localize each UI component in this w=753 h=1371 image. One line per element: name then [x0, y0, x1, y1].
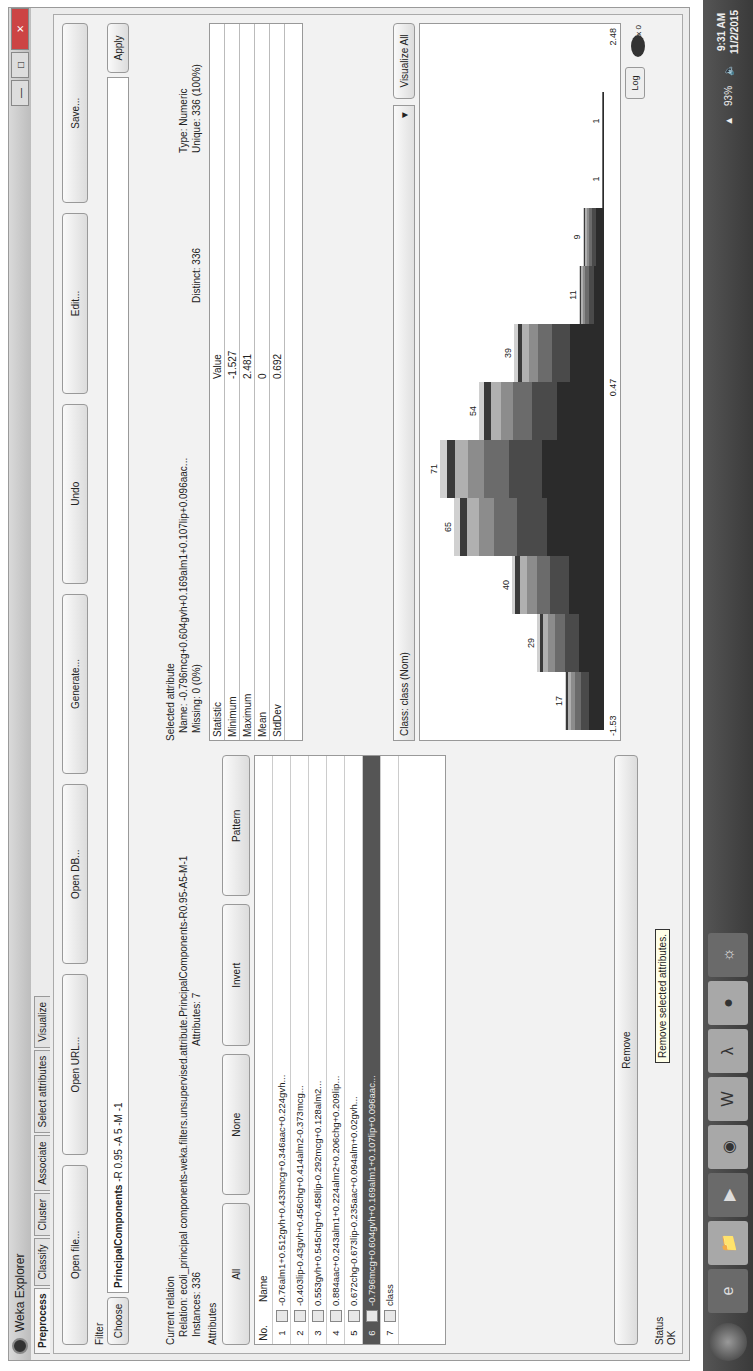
x-mid-label: 0.47 — [608, 379, 618, 397]
word-icon[interactable]: W — [708, 1077, 748, 1121]
class-selector-row: Class: class (Nom) ▼ Visualize All — [393, 23, 415, 741]
preprocess-panel: Open file... Open URL... Open DB... Gene… — [53, 14, 683, 1354]
class-histogram: -1.53 0.47 2.48 1729406571543911911 — [419, 23, 621, 741]
close-icon[interactable]: ✕ — [11, 8, 29, 50]
select-none-button[interactable]: None — [222, 1054, 250, 1196]
stat-name: Mean — [257, 379, 268, 740]
bar-count-label: 54 — [468, 406, 478, 416]
filter-config-field[interactable]: PrincipalComponents -R 0.95 -A 5 -M -1 — [107, 77, 129, 1293]
tab-select-attributes[interactable]: Select attributes — [34, 1050, 50, 1134]
attribute-name: -0.403lip-0.43gvh+0.456chg+0.414alm2-0.3… — [294, 1085, 305, 1306]
distinct-value: 336 — [191, 248, 202, 265]
network-signal-icon[interactable]: ▲ — [723, 116, 734, 126]
visualize-all-button[interactable]: Visualize All — [393, 23, 415, 99]
attributes-count-value: 7 — [191, 993, 202, 999]
current-relation-section: Current relation Relation: ecoli_princip… — [164, 755, 203, 1345]
tab-visualize[interactable]: Visualize — [34, 996, 50, 1048]
edit-button[interactable]: Edit... — [62, 213, 88, 393]
status-heading: Status — [654, 1317, 666, 1345]
table-header: No. Name — [255, 756, 273, 1344]
bar-count-label: 17 — [554, 696, 564, 706]
remove-tooltip: Remove selected attributes. — [655, 929, 670, 1063]
maximize-icon[interactable]: □ — [11, 52, 29, 78]
media-app-icon[interactable]: ☼ — [708, 933, 748, 977]
minimize-icon[interactable]: — — [11, 80, 29, 106]
undo-button[interactable]: Undo — [62, 404, 88, 584]
histogram-bar — [602, 92, 604, 150]
row-checkbox[interactable] — [276, 1310, 288, 1322]
table-row[interactable]: 1 -0.76alm1+0.512gvh+0.433mcg+0.346aac+0… — [273, 756, 291, 1344]
stat-value: 0 — [257, 373, 268, 379]
tab-associate[interactable]: Associate — [34, 1135, 50, 1190]
row-checkbox[interactable] — [294, 1310, 306, 1322]
attribute-name: -0.76alm1+0.512gvh+0.433mcg+0.346aac+0.2… — [276, 1075, 287, 1306]
attribute-name: class — [384, 1284, 395, 1306]
remove-button[interactable]: Remove — [614, 755, 638, 1345]
statistic-header: Statistic — [212, 379, 223, 740]
chevron-down-icon: ▼ — [399, 110, 410, 120]
row-checkbox[interactable] — [384, 1310, 396, 1322]
choose-filter-button[interactable]: Choose — [107, 1297, 129, 1345]
stat-value: -1.527 — [227, 351, 238, 379]
tab-preprocess[interactable]: Preprocess — [34, 1288, 50, 1354]
media-player-icon[interactable]: ▶ — [708, 1173, 748, 1217]
open-file-button[interactable]: Open file... — [62, 1165, 88, 1345]
dark-app-icon[interactable]: ● — [708, 981, 748, 1025]
attribute-name: -0.796mcg+0.604gvh+0.169alm1+0.107lip+0.… — [366, 1075, 377, 1306]
tab-classify[interactable]: Classify — [34, 1239, 50, 1286]
apply-button[interactable]: Apply — [107, 23, 129, 73]
attr-name-label: Name: — [178, 704, 189, 733]
right-pane: Selected attribute Name: -0.796mcg+0.604… — [164, 23, 652, 741]
stat-name: Maximum — [242, 379, 253, 740]
table-row[interactable]: 4 0.884aac+0.243alm1+0.224alm2+0.206chg+… — [327, 756, 345, 1344]
class-dropdown-value: Class: class (Nom) — [399, 652, 410, 736]
table-row[interactable]: 7 class — [381, 756, 399, 1344]
class-dropdown[interactable]: Class: class (Nom) ▼ — [393, 105, 415, 741]
row-number: 4 — [330, 1322, 341, 1344]
chrome-icon[interactable]: ◉ — [708, 1125, 748, 1169]
battery-indicator[interactable]: 93% — [723, 86, 734, 106]
window-title: Weka Explorer — [13, 1254, 27, 1332]
tab-bar: Preprocess Classify Cluster Associate Se… — [31, 8, 50, 1360]
table-row[interactable]: 3 0.553gvh+0.545chg+0.458lip-0.292mcg+0.… — [309, 756, 327, 1344]
select-all-button[interactable]: All — [222, 1204, 250, 1346]
filter-section: Filter Choose PrincipalComponents -R 0.9… — [92, 15, 131, 1353]
clock-time: 9:31 AM — [715, 10, 728, 54]
status-section: Status OK — [654, 1317, 678, 1345]
open-db-button[interactable]: Open DB... — [62, 784, 88, 964]
instances-label: Instances: — [191, 1291, 202, 1337]
save-button[interactable]: Save... — [62, 23, 88, 203]
clock[interactable]: 9:31 AM 11/2/2015 — [715, 10, 741, 54]
bar-count-label: 71 — [429, 464, 439, 474]
filter-label: Filter — [94, 23, 105, 1345]
pattern-button[interactable]: Pattern — [222, 755, 250, 897]
row-checkbox[interactable] — [348, 1310, 360, 1322]
table-row-selected[interactable]: 6 -0.796mcg+0.604gvh+0.169alm1+0.107lip+… — [363, 756, 381, 1344]
bar-count-label: 1 — [591, 176, 601, 181]
stat-value: 0.692 — [272, 354, 283, 379]
table-row[interactable]: 5 0.672chg-0.673lip-0.235aac+0.094alm+0.… — [345, 756, 363, 1344]
missing-value: 0 (0%) — [191, 664, 202, 693]
acrobat-icon[interactable]: λ — [708, 1029, 748, 1073]
file-explorer-icon[interactable]: 📁 — [708, 1221, 748, 1265]
toolbar: Open file... Open URL... Open DB... Gene… — [54, 15, 92, 1353]
log-button[interactable]: Log — [625, 67, 645, 99]
tab-cluster[interactable]: Cluster — [34, 1193, 50, 1237]
histogram-bar — [512, 556, 604, 614]
row-checkbox[interactable] — [312, 1310, 324, 1322]
generate-button[interactable]: Generate... — [62, 594, 88, 774]
open-url-button[interactable]: Open URL... — [62, 974, 88, 1154]
column-name: Name — [258, 1275, 269, 1302]
row-number: 1 — [276, 1322, 287, 1344]
volume-icon[interactable]: 🔈 — [723, 64, 734, 76]
row-checkbox[interactable] — [366, 1310, 378, 1322]
table-row[interactable]: 2 -0.403lip-0.43gvh+0.456chg+0.414alm2-0… — [291, 756, 309, 1344]
internet-explorer-icon[interactable]: e — [708, 1269, 748, 1313]
relation-value: ecoli_principal components-weka.filters.… — [178, 856, 189, 1295]
attribute-name: 0.672chg-0.673lip-0.235aac+0.094alm+0.02… — [348, 1096, 359, 1306]
row-checkbox[interactable] — [330, 1310, 342, 1322]
column-no: No. — [258, 1322, 269, 1344]
x-counter: x 0 — [634, 25, 643, 36]
start-button[interactable] — [709, 1323, 747, 1361]
invert-selection-button[interactable]: Invert — [222, 905, 250, 1047]
